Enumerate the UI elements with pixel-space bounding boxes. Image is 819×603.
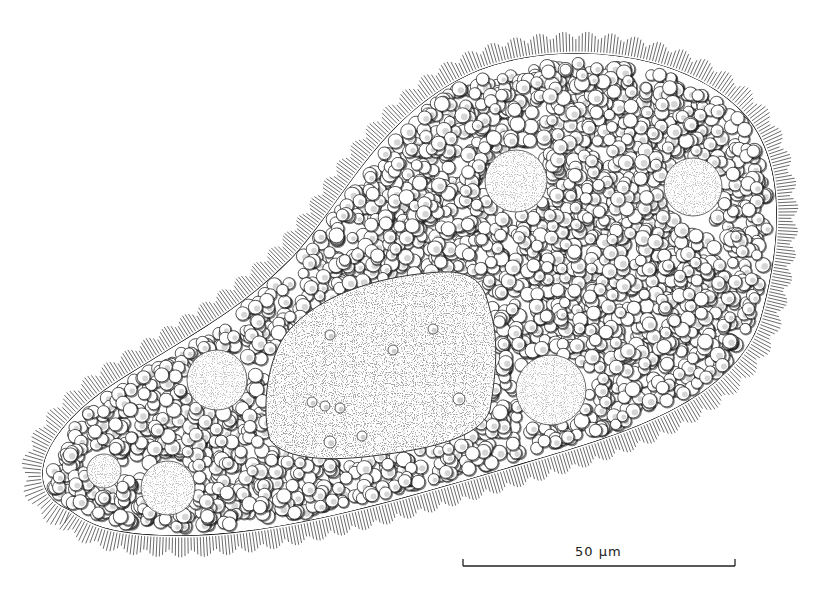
- vacuole-top-right: [664, 158, 722, 216]
- scale-bar-label: 50 μm: [575, 544, 622, 559]
- ciliate-illustration: [0, 0, 819, 603]
- scale-bar: [463, 559, 735, 566]
- vacuole-top-center: [485, 150, 547, 212]
- vacuole-lower-left: [141, 461, 195, 515]
- vacuole-tip: [87, 454, 121, 488]
- vacuole-mid-right: [516, 355, 586, 425]
- vacuole-mid-left: [187, 350, 247, 410]
